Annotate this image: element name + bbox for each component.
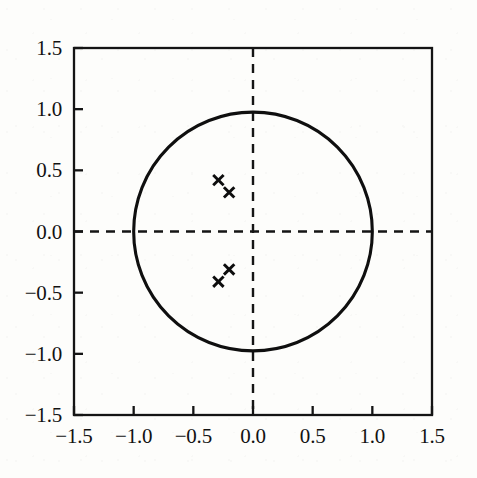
y-tick-label: −0.5 bbox=[25, 280, 62, 305]
unit-circle-scatter-chart: −1.5−1.0−0.50.00.51.01.5−1.5−1.0−0.50.00… bbox=[0, 0, 477, 478]
x-tick-label: 0.0 bbox=[240, 424, 266, 449]
x-tick-label: −0.5 bbox=[175, 424, 212, 449]
x-tick-label: −1.0 bbox=[115, 424, 152, 449]
y-tick-label: 1.0 bbox=[36, 97, 62, 122]
data-point-marker bbox=[213, 175, 223, 185]
x-tick-label: 1.5 bbox=[419, 424, 445, 449]
x-tick-label: 0.5 bbox=[300, 424, 326, 449]
data-point-marker bbox=[224, 264, 234, 274]
x-tick-label: −1.5 bbox=[55, 424, 92, 449]
x-tick-label: 1.0 bbox=[360, 424, 386, 449]
data-point-marker bbox=[213, 276, 223, 286]
y-tick-label: −1.0 bbox=[25, 341, 62, 366]
plot-canvas bbox=[0, 0, 477, 478]
y-tick-label: 0.5 bbox=[36, 158, 62, 183]
y-tick-label: 1.5 bbox=[36, 36, 62, 61]
data-point-marker bbox=[224, 187, 234, 197]
y-tick-label: 0.0 bbox=[36, 219, 62, 244]
